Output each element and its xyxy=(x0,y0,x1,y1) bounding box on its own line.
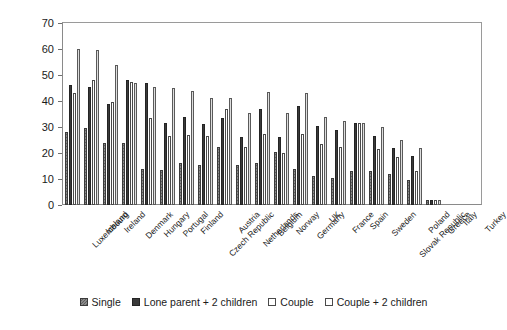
bar xyxy=(84,128,87,205)
bar xyxy=(293,169,296,205)
bar xyxy=(419,148,422,205)
bar xyxy=(65,132,68,205)
bar xyxy=(430,200,433,205)
bar xyxy=(343,121,346,206)
bar xyxy=(316,126,319,205)
hatched-grey-swatch xyxy=(80,298,88,306)
bar-group xyxy=(291,23,310,205)
bar xyxy=(267,92,270,205)
y-tick-label-40: 40 xyxy=(42,96,54,107)
legend-item: Couple + 2 children xyxy=(325,296,428,308)
bar xyxy=(221,118,224,205)
bar xyxy=(115,65,118,205)
bar xyxy=(183,117,186,205)
legend-label: Couple xyxy=(280,296,313,308)
y-tick-label-20: 20 xyxy=(42,148,54,159)
bar xyxy=(172,88,175,205)
y-tick-label-70: 70 xyxy=(42,18,54,29)
bar xyxy=(107,104,110,205)
bar xyxy=(392,148,395,205)
y-tick-label-10: 10 xyxy=(42,174,54,185)
bar xyxy=(145,83,148,205)
bar-group xyxy=(386,23,405,205)
bar-group xyxy=(272,23,291,205)
bar xyxy=(407,180,410,205)
legend-item: Couple xyxy=(268,296,313,308)
bar xyxy=(225,109,228,205)
bar-group xyxy=(215,23,234,205)
bar-group xyxy=(234,23,253,205)
bar xyxy=(202,124,205,205)
bars-layer xyxy=(63,23,481,205)
bar xyxy=(286,113,289,205)
bar xyxy=(111,102,114,205)
bar xyxy=(339,147,342,206)
bar xyxy=(126,80,129,205)
bar xyxy=(400,140,403,205)
bar xyxy=(179,163,182,205)
bar xyxy=(274,152,277,205)
bar xyxy=(362,123,365,205)
bar xyxy=(369,171,372,205)
light-grey-swatch xyxy=(325,298,333,306)
bar xyxy=(282,153,285,205)
bar xyxy=(240,137,243,205)
bar xyxy=(415,171,418,205)
bar xyxy=(297,106,300,205)
bar-group xyxy=(177,23,196,205)
bar xyxy=(217,147,220,206)
bar xyxy=(122,143,125,205)
bar xyxy=(426,200,429,205)
bar xyxy=(324,117,327,205)
bar-chart: 010203040506070 LuxembourgIcelandIreland… xyxy=(0,0,507,330)
bar-group xyxy=(120,23,139,205)
bar xyxy=(312,176,315,205)
bar xyxy=(354,123,357,205)
bar-group xyxy=(424,23,443,205)
bar-group xyxy=(82,23,101,205)
bar xyxy=(358,123,361,205)
bar xyxy=(103,143,106,205)
bar xyxy=(164,123,167,205)
bar-group xyxy=(405,23,424,205)
bar-group xyxy=(101,23,120,205)
bar xyxy=(438,200,441,205)
bar xyxy=(73,93,76,205)
bar xyxy=(411,156,414,205)
y-axis: 010203040506070 xyxy=(0,22,62,206)
legend-label: Couple + 2 children xyxy=(337,296,428,308)
bar xyxy=(331,178,334,205)
bar xyxy=(92,80,95,205)
bar xyxy=(88,87,91,205)
x-axis-label: Sweden xyxy=(390,210,418,238)
bar xyxy=(236,165,239,205)
solid-dark-swatch xyxy=(132,298,140,306)
bar-group xyxy=(139,23,158,205)
legend-item: Lone parent + 2 children xyxy=(132,296,258,308)
x-axis-labels: LuxembourgIcelandIrelandDenmarkHungaryPo… xyxy=(63,207,481,277)
bar-group xyxy=(253,23,272,205)
bar-group xyxy=(196,23,215,205)
bar xyxy=(96,50,99,205)
bar xyxy=(320,144,323,205)
legend-label: Single xyxy=(92,296,121,308)
bar xyxy=(141,169,144,205)
bar xyxy=(388,174,391,205)
x-axis-label: Turkey xyxy=(483,210,507,235)
bar xyxy=(396,157,399,205)
bar-group xyxy=(63,23,82,205)
bar xyxy=(160,170,163,205)
bar xyxy=(69,85,72,205)
chart-legend: SingleLone parent + 2 childrenCoupleCoup… xyxy=(0,296,507,308)
y-tick-label-0: 0 xyxy=(48,200,54,211)
bar-group xyxy=(367,23,386,205)
bar xyxy=(248,113,251,205)
bar xyxy=(335,130,338,205)
bar xyxy=(278,137,281,205)
bar xyxy=(134,83,137,205)
bar xyxy=(434,200,437,205)
legend-item: Single xyxy=(80,296,121,308)
bar-group xyxy=(158,23,177,205)
bar xyxy=(244,147,247,206)
bar xyxy=(229,98,232,205)
